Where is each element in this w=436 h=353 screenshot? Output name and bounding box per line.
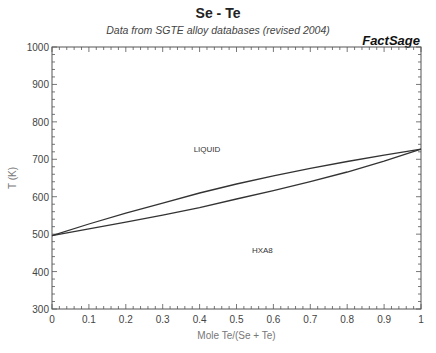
solidus-curve <box>52 149 421 235</box>
y-tick-label: 1000 <box>27 42 50 53</box>
phase-label-liquid: LIQUID <box>194 145 221 154</box>
x-tick-label: 0.6 <box>266 314 280 325</box>
phase-label-hxa8: HXA8 <box>252 246 273 255</box>
phase-diagram-plot: 00.10.20.30.40.50.60.70.80.9130040050060… <box>0 0 436 353</box>
y-tick-label: 700 <box>32 154 49 165</box>
x-tick-label: 0.7 <box>303 314 317 325</box>
y-tick-label: 900 <box>32 79 49 90</box>
x-tick-label: 0 <box>49 314 55 325</box>
x-tick-label: 0.4 <box>193 314 207 325</box>
x-tick-label: 0.9 <box>377 314 391 325</box>
x-tick-label: 0.2 <box>119 314 133 325</box>
y-tick-label: 300 <box>32 304 49 315</box>
y-tick-label: 800 <box>32 117 49 128</box>
plot-frame <box>52 47 421 309</box>
x-tick-label: 0.1 <box>82 314 96 325</box>
liquidus-curve <box>52 149 421 235</box>
x-tick-label: 0.8 <box>340 314 354 325</box>
x-axis-label: Mole Te/(Se + Te) <box>197 330 275 341</box>
y-axis-label: T (K) <box>7 167 18 189</box>
x-tick-label: 1 <box>418 314 424 325</box>
y-tick-label: 400 <box>32 267 49 278</box>
y-tick-label: 500 <box>32 229 49 240</box>
x-tick-label: 0.5 <box>230 314 244 325</box>
x-tick-label: 0.3 <box>156 314 170 325</box>
y-tick-label: 600 <box>32 192 49 203</box>
